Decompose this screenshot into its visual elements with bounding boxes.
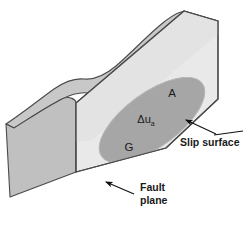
label-ground: G (125, 141, 134, 153)
label-fault-plane-line1: Fault (140, 181, 166, 193)
label-slip-vector-base: Δu (137, 113, 150, 125)
fault-block-diagram: A G Δua Slip surface Fault plane (0, 0, 248, 232)
slip-surface-leader-line (186, 120, 216, 134)
label-slip-surface: Slip surface (180, 136, 240, 148)
fault-plane-leader-line (106, 182, 134, 194)
diagram-canvas: A G Δua Slip surface Fault plane (0, 0, 248, 232)
label-fault-plane-line2: plane (140, 194, 168, 206)
block-end-face (6, 98, 76, 197)
label-asperity: A (168, 87, 176, 99)
slip-surface-leader-tail (214, 131, 243, 135)
label-slip-vector-subscript: a (151, 120, 155, 127)
